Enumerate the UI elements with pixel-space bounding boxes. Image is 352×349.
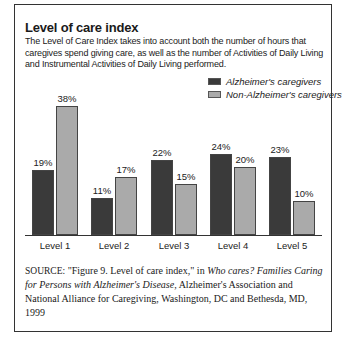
source-label: SOURCE: (25, 266, 65, 276)
x-axis-category-label: Level 2 (89, 240, 139, 251)
legend-swatch-alzheimers (208, 78, 221, 85)
bar-value-label: 11% (87, 185, 117, 196)
source-note: SOURCE: "Figure 9. Level of care index,"… (25, 264, 325, 320)
bar-non-alzheimers-2 (115, 177, 137, 235)
bar-non-alzheimers-5 (293, 201, 315, 235)
bar-value-label: 19% (28, 157, 58, 168)
x-axis-line (25, 235, 322, 236)
bar-value-label: 38% (52, 93, 82, 104)
bar-non-alzheimers-1 (56, 106, 78, 235)
bar-value-label: 10% (289, 188, 319, 199)
legend-label: Non-Alzheimer's caregivers (226, 89, 342, 100)
legend-label: Alzheimer's caregivers (226, 76, 321, 87)
bar-alzheimers-1 (32, 170, 54, 235)
x-axis-category-label: Level 4 (208, 240, 258, 251)
bar-value-label: 23% (265, 144, 295, 155)
x-axis-category-label: Level 3 (149, 240, 199, 251)
bar-alzheimers-3 (151, 160, 173, 235)
bar-alzheimers-4 (210, 154, 232, 235)
source-text-1: "Figure 9. Level of care index," in (65, 265, 207, 276)
x-axis-category-label: Level 1 (30, 240, 80, 251)
bar-value-label: 24% (206, 141, 236, 152)
bar-value-label: 20% (230, 154, 260, 165)
bar-value-label: 15% (171, 171, 201, 182)
bar-value-label: 17% (111, 164, 141, 175)
bar-alzheimers-5 (269, 157, 291, 235)
legend-swatch-non-alzheimers (208, 91, 221, 98)
bar-non-alzheimers-3 (175, 184, 197, 235)
x-axis-category-label: Level 5 (267, 240, 317, 251)
chart-title: Level of care index (25, 20, 138, 35)
bar-non-alzheimers-4 (234, 167, 256, 235)
bar-alzheimers-2 (91, 198, 113, 235)
chart-subtitle: The Level of Care Index takes into accou… (25, 36, 325, 71)
bar-value-label: 22% (147, 147, 177, 158)
